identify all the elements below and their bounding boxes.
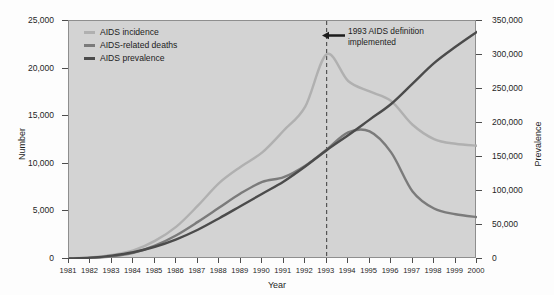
y-axis-left-tick bbox=[62, 163, 68, 164]
legend-label-deaths: AIDS-related deaths bbox=[100, 40, 177, 50]
annotation-text-line2: implemented bbox=[348, 37, 466, 48]
aids-surveillance-chart: 05,00010,00015,00020,00025,000 050,00010… bbox=[0, 0, 554, 295]
legend-label-prevalence: AIDS prevalence bbox=[100, 53, 165, 63]
x-axis-ticklabel: 1989 bbox=[231, 266, 248, 275]
x-axis-ticklabel: 1983 bbox=[102, 266, 119, 275]
y-axis-right-title: Prevalence bbox=[533, 106, 543, 182]
y-axis-right-ticklabel: 300,000 bbox=[484, 49, 523, 59]
x-axis-tick bbox=[240, 258, 241, 263]
legend-item-prevalence: AIDS prevalence bbox=[84, 52, 177, 64]
y-axis-left-ticklabel: 5,000 bbox=[33, 205, 62, 215]
legend-item-incidence: AIDS incidence bbox=[84, 26, 177, 38]
x-axis-tick bbox=[326, 258, 327, 263]
x-axis-tick bbox=[197, 258, 198, 263]
x-axis-tick bbox=[132, 258, 133, 263]
x-axis-tick bbox=[283, 258, 284, 263]
x-axis-tick bbox=[218, 258, 219, 263]
y-axis-right-tick bbox=[476, 54, 482, 55]
x-axis-tick bbox=[68, 258, 69, 263]
y-axis-left-tick bbox=[62, 115, 68, 116]
x-axis-tick bbox=[89, 258, 90, 263]
legend-swatch-incidence bbox=[84, 31, 95, 34]
y-axis-right-tick bbox=[476, 88, 482, 89]
left-arrow-icon bbox=[322, 31, 346, 40]
y-axis-right-ticklabel: 150,000 bbox=[484, 151, 523, 161]
y-axis-left-ticklabels: 05,00010,00015,00020,00025,000 bbox=[0, 20, 62, 258]
series-line-incidence bbox=[69, 54, 477, 259]
legend-label-incidence: AIDS incidence bbox=[100, 27, 159, 37]
x-axis-tick bbox=[154, 258, 155, 263]
legend: AIDS incidence AIDS-related deaths AIDS … bbox=[84, 26, 177, 65]
x-axis-tick bbox=[390, 258, 391, 263]
x-axis-ticklabel: 1988 bbox=[210, 266, 227, 275]
x-axis-ticklabel: 1991 bbox=[274, 266, 291, 275]
x-axis-ticklabel: 1986 bbox=[167, 266, 184, 275]
y-axis-left-ticklabel: 20,000 bbox=[28, 63, 62, 73]
annotation-text-line1: 1993 AIDS definition bbox=[348, 26, 466, 37]
y-axis-right-ticklabel: 200,000 bbox=[484, 117, 523, 127]
y-axis-left-ticklabel: 10,000 bbox=[28, 158, 62, 168]
x-axis-tick bbox=[304, 258, 305, 263]
x-axis-title: Year bbox=[0, 280, 554, 290]
y-axis-left-ticklabel: 25,000 bbox=[28, 15, 62, 25]
y-axis-left-tick bbox=[62, 20, 68, 21]
y-axis-right-ticklabel: 100,000 bbox=[484, 185, 523, 195]
x-axis-ticklabel: 1993 bbox=[317, 266, 334, 275]
y-axis-right-tick bbox=[476, 20, 482, 21]
x-axis-ticklabel: 1981 bbox=[60, 266, 77, 275]
y-axis-right-ticklabel: 250,000 bbox=[484, 83, 523, 93]
y-axis-right-ticklabel: 350,000 bbox=[484, 15, 523, 25]
y-axis-left-ticklabel: 15,000 bbox=[28, 110, 62, 120]
legend-item-deaths: AIDS-related deaths bbox=[84, 39, 177, 51]
x-axis-ticklabel: 1992 bbox=[296, 266, 313, 275]
y-axis-right-ticklabel: 50,000 bbox=[484, 219, 518, 229]
x-axis-ticklabel: 1990 bbox=[253, 266, 270, 275]
y-axis-right-tick bbox=[476, 156, 482, 157]
x-axis-tick bbox=[412, 258, 413, 263]
x-axis-ticklabel: 1996 bbox=[382, 266, 399, 275]
x-axis-tick bbox=[111, 258, 112, 263]
x-axis-tick bbox=[476, 258, 477, 263]
y-axis-right-tick bbox=[476, 190, 482, 191]
x-axis-ticklabel: 1995 bbox=[360, 266, 377, 275]
legend-swatch-deaths bbox=[84, 44, 95, 47]
y-axis-left-tick bbox=[62, 68, 68, 69]
x-axis-ticklabel: 1984 bbox=[124, 266, 141, 275]
series-line-deaths bbox=[69, 129, 477, 258]
y-axis-left-title: Number bbox=[17, 114, 27, 174]
x-axis-ticklabel: 1998 bbox=[425, 266, 442, 275]
y-axis-left-ticklabel: 0 bbox=[49, 253, 62, 263]
x-axis-tick bbox=[369, 258, 370, 263]
x-axis-tick bbox=[455, 258, 456, 263]
x-axis-tick bbox=[347, 258, 348, 263]
x-axis-ticklabel: 1985 bbox=[145, 266, 162, 275]
x-axis-ticklabel: 1994 bbox=[339, 266, 356, 275]
x-axis-ticklabel: 1999 bbox=[446, 266, 463, 275]
x-axis-tick bbox=[175, 258, 176, 263]
series-line-prevalence bbox=[69, 32, 477, 259]
annotation-text: 1993 AIDS definition implemented bbox=[348, 26, 466, 48]
x-axis-ticklabel: 1982 bbox=[81, 266, 98, 275]
y-axis-right-ticklabel: 0 bbox=[484, 253, 497, 263]
x-axis-ticklabel: 1987 bbox=[188, 266, 205, 275]
y-axis-right-tick bbox=[476, 224, 482, 225]
legend-swatch-prevalence bbox=[84, 57, 95, 60]
x-axis-ticklabel: 1997 bbox=[403, 266, 420, 275]
y-axis-right-tick bbox=[476, 122, 482, 123]
y-axis-left-tick bbox=[62, 210, 68, 211]
x-axis-tick bbox=[261, 258, 262, 263]
x-axis-ticklabels: 1981198219831984198519861987198819891990… bbox=[0, 266, 554, 280]
x-axis-ticklabel: 2000 bbox=[468, 266, 485, 275]
x-axis-tick bbox=[433, 258, 434, 263]
